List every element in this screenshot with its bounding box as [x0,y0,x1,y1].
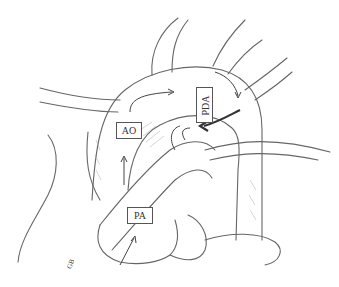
ductus-label-text: PDA [199,95,210,115]
pulmonary-artery-label: PA [127,207,153,224]
pulmonary-artery-label-text: PA [134,210,146,221]
aorta-label-text: AO [122,125,136,136]
heart-vessels-drawing [0,0,339,287]
ductus-label: PDA [196,87,213,123]
aorta-label: AO [116,122,142,139]
